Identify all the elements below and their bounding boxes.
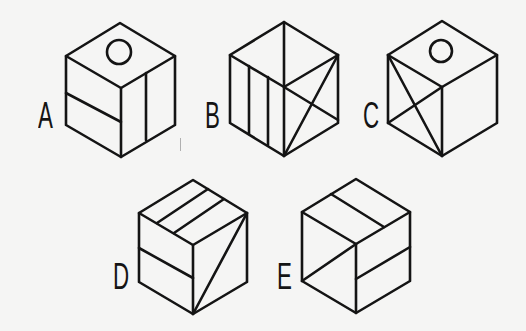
cube-e-top-line (331, 194, 384, 227)
cube-e-right-line (356, 247, 410, 279)
cube-d-top-line-1 (157, 189, 208, 223)
cube-e (302, 179, 410, 313)
cube-a-circle-mark (107, 40, 131, 64)
cube-c (388, 21, 497, 156)
cube-a-left-line (66, 93, 121, 122)
cube-c-circle-mark (430, 40, 452, 62)
cube-d-left-line (139, 248, 193, 278)
label-d: D (113, 259, 129, 295)
label-c: C (363, 98, 379, 134)
label-a: A (38, 98, 53, 134)
cube-e-left-diagonal (302, 244, 356, 281)
cube-d-top-edges (139, 213, 247, 245)
cubes-drawing (0, 0, 526, 331)
cube-c-left-diagonal-2 (388, 87, 442, 123)
label-b: B (205, 98, 220, 134)
cube-d-top-line-2 (174, 199, 224, 233)
cube-b (230, 22, 338, 156)
cube-figure: A B C D E (0, 0, 526, 331)
cube-d (139, 180, 247, 314)
label-e: E (277, 259, 292, 295)
scan-mark (180, 138, 181, 151)
cube-c-top-edges (388, 55, 497, 87)
cube-e-top-edges (302, 212, 410, 244)
cube-a-top-edges (66, 56, 175, 88)
cube-a (66, 23, 175, 157)
